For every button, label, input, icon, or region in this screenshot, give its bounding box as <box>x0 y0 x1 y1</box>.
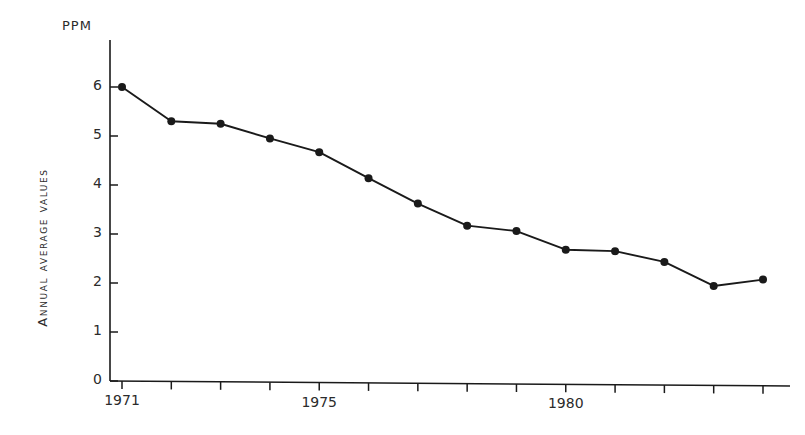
y-tick-label: 2 <box>80 273 102 289</box>
data-point-marker <box>463 222 471 230</box>
data-point-marker <box>266 134 274 142</box>
data-point-marker <box>217 120 225 128</box>
data-point-marker <box>759 276 767 284</box>
y-axis-ticks <box>110 87 118 381</box>
axes <box>110 40 790 386</box>
y-tick-label: 0 <box>80 371 102 387</box>
data-point-marker <box>660 258 668 266</box>
data-point-marker <box>167 117 175 125</box>
y-tick-label: 1 <box>80 322 102 338</box>
data-point-marker <box>710 282 718 290</box>
series-line <box>122 87 763 286</box>
x-tick-label: 1980 <box>541 395 591 411</box>
data-point-marker <box>562 246 570 254</box>
chart-container: PPM Annual average values 0123456 197119… <box>0 0 805 435</box>
data-point-marker <box>118 83 126 91</box>
plot-area <box>0 0 805 435</box>
data-series <box>118 83 767 290</box>
y-tick-label: 3 <box>80 224 102 240</box>
x-axis-line <box>110 381 790 386</box>
x-tick-label: 1971 <box>97 392 147 408</box>
data-point-marker <box>611 247 619 255</box>
y-tick-label: 4 <box>80 175 102 191</box>
data-point-marker <box>365 174 373 182</box>
data-point-marker <box>315 148 323 156</box>
data-markers <box>118 83 767 290</box>
y-tick-label: 6 <box>80 77 102 93</box>
x-tick-label: 1975 <box>294 394 344 410</box>
data-point-marker <box>512 227 520 235</box>
data-point-marker <box>414 200 422 208</box>
y-tick-label: 5 <box>80 126 102 142</box>
